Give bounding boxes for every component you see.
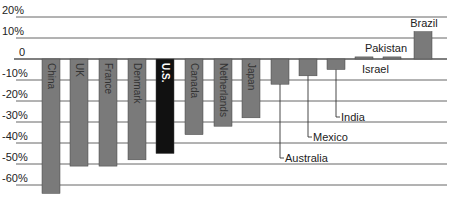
bar-india — [327, 59, 345, 70]
bar-label: Japan — [246, 63, 257, 90]
y-tick-label: 20% — [2, 4, 24, 16]
y-tick-label: 0 — [19, 46, 25, 58]
bar-mexico — [299, 59, 317, 76]
bar-label: UK — [74, 63, 85, 77]
bar-label: Pakistan — [365, 42, 407, 54]
bars — [42, 32, 432, 194]
y-tick-label: -10% — [2, 67, 28, 79]
bar-label: Australia — [285, 152, 329, 164]
bar-label: France — [103, 63, 114, 95]
bar-label: U.S. — [160, 63, 171, 83]
bar-label: Denmark — [132, 63, 143, 105]
callout-line — [308, 76, 312, 137]
y-tick-label: -40% — [2, 130, 28, 142]
callout-line — [280, 84, 284, 158]
bar-label: Netherlands — [218, 63, 229, 117]
bar-label: Canada — [189, 63, 200, 98]
y-axis-labels: 20%10%0-10%-20%-30%-40%-50%-60% — [2, 4, 28, 184]
bar-brazil — [414, 32, 432, 59]
bar-label: Mexico — [313, 131, 348, 143]
bar-australia — [271, 59, 289, 84]
y-tick-label: -60% — [2, 172, 28, 184]
y-tick-label: 10% — [2, 25, 24, 37]
bar-israel — [355, 57, 373, 59]
bar-label: Israel — [362, 63, 389, 75]
y-tick-label: -50% — [2, 151, 28, 163]
y-tick-label: -30% — [2, 109, 28, 121]
bar-label: Brazil — [410, 17, 438, 29]
bar-label: China — [46, 63, 57, 90]
y-tick-label: -20% — [2, 88, 28, 100]
bar-chart: 20%10%0-10%-20%-30%-40%-50%-60% ChinaUKF… — [0, 0, 453, 197]
bar-label: India — [341, 111, 366, 123]
callout-line — [336, 70, 340, 118]
bar-pakistan — [383, 57, 401, 59]
